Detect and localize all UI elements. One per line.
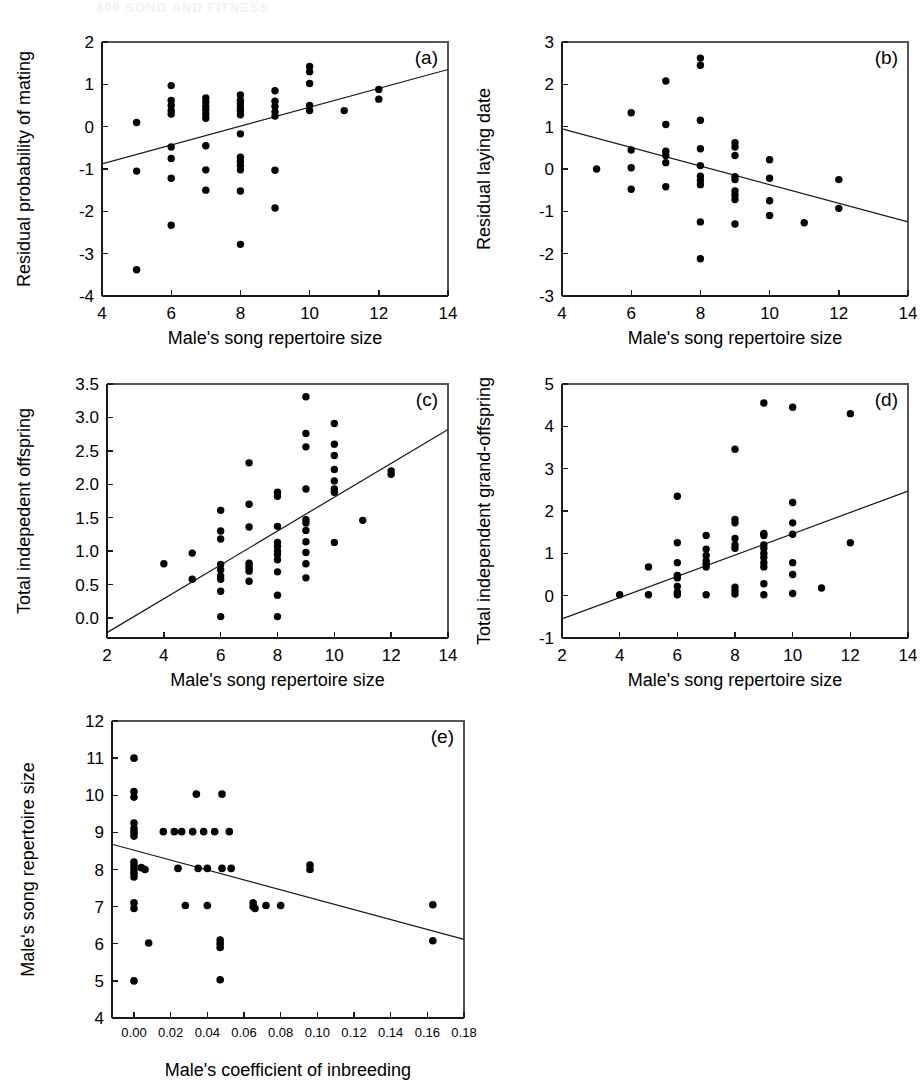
data-point [141, 866, 149, 874]
data-point [194, 865, 202, 873]
data-point [760, 591, 767, 598]
y-tick-label: 2.5 [75, 442, 99, 461]
x-tick-label: 8 [730, 646, 739, 665]
data-point [697, 218, 704, 225]
figure-root: 400 SONG AND FITNESS -4-3-2-101246810121… [0, 0, 922, 1085]
panel-e-repertoire-vs-inbreeding: 4567891011120.000.020.040.060.080.100.12… [12, 705, 482, 1080]
panel-letter: (a) [415, 47, 438, 68]
data-point [697, 62, 704, 69]
regression-line [107, 429, 448, 632]
y-tick-label: 7 [95, 898, 104, 917]
data-point [302, 538, 309, 545]
data-point [171, 828, 179, 836]
data-point [306, 80, 313, 87]
y-tick-label: 1.5 [75, 509, 99, 528]
y-tick-label: 2 [545, 75, 554, 94]
data-point [160, 560, 167, 567]
data-point [731, 152, 738, 159]
x-axis-title: Male's coefficient of inbreeding [165, 1060, 411, 1080]
plot-e: 4567891011120.000.020.040.060.080.100.12… [12, 705, 482, 1080]
data-point [674, 539, 681, 546]
y-tick-label: 1 [85, 75, 94, 94]
data-point [237, 241, 244, 248]
y-axis-title: Total independent grand-offspring [474, 377, 494, 645]
data-point [227, 865, 235, 873]
plot-a: -4-3-2-1012468101214(a)Male's song reper… [12, 28, 462, 348]
data-point [835, 205, 842, 212]
data-point [593, 165, 600, 172]
plot-frame [112, 721, 464, 1018]
regression-line [562, 491, 908, 619]
data-point [645, 563, 652, 570]
y-tick-label: 1 [545, 118, 554, 137]
data-point [217, 507, 224, 514]
data-point [226, 828, 234, 836]
data-point [217, 588, 224, 595]
x-tick-label: 0.14 [378, 1025, 403, 1040]
data-point [302, 430, 309, 437]
data-point [302, 549, 309, 556]
y-tick-label: 3.0 [75, 408, 99, 427]
y-tick-label: 3 [545, 33, 554, 52]
x-tick-label: 6 [626, 304, 635, 323]
data-point [302, 574, 309, 581]
data-point [174, 865, 182, 873]
data-point [662, 121, 669, 128]
data-point [697, 255, 704, 262]
data-point [731, 143, 738, 150]
x-tick-label: 4 [615, 646, 624, 665]
x-axis-title: Male's song repertoire size [628, 670, 843, 690]
data-point [218, 865, 226, 873]
x-tick-label: 0.12 [341, 1025, 366, 1040]
data-point [731, 590, 738, 597]
data-point [182, 902, 190, 910]
data-point [302, 560, 309, 567]
y-tick-label: 3.5 [75, 375, 99, 394]
data-point [168, 82, 175, 89]
data-point [789, 590, 796, 597]
data-point [789, 519, 796, 526]
data-point [306, 107, 313, 114]
plot-b: -3-2-10123468101214(b)Male's song repert… [472, 28, 922, 348]
x-tick-label: 14 [899, 646, 918, 665]
data-point [702, 545, 709, 552]
data-point [616, 591, 623, 598]
data-point [628, 186, 635, 193]
data-point [168, 143, 175, 150]
x-tick-label: 10 [325, 646, 344, 665]
x-tick-label: 4 [557, 304, 566, 323]
x-tick-label: 10 [300, 304, 319, 323]
panel-letter: (c) [416, 389, 438, 410]
y-tick-label: 8 [95, 861, 104, 880]
data-point [133, 167, 140, 174]
y-axis-title: Residual laying date [474, 88, 494, 250]
data-point [271, 167, 278, 174]
data-points [160, 393, 395, 620]
x-tick-label: 0.00 [121, 1025, 146, 1040]
data-point [211, 828, 219, 836]
panel-letter: (b) [875, 47, 898, 68]
x-tick-label: 8 [696, 304, 705, 323]
data-points [130, 754, 436, 984]
data-point [674, 574, 681, 581]
data-point [217, 527, 224, 534]
data-point [818, 584, 825, 591]
data-point [702, 591, 709, 598]
y-tick-label: 0 [85, 118, 94, 137]
y-tick-label: 0 [545, 587, 554, 606]
data-point [302, 393, 309, 400]
y-tick-label: 4 [545, 417, 554, 436]
data-point [628, 109, 635, 116]
x-axis-title: Male's song repertoire size [168, 328, 383, 348]
data-point [133, 119, 140, 126]
data-point [674, 559, 681, 566]
panel-b-residual-laying-date: -3-2-10123468101214(b)Male's song repert… [472, 28, 922, 348]
data-point [168, 175, 175, 182]
data-points [593, 54, 843, 262]
data-point [168, 222, 175, 229]
data-point [697, 181, 704, 188]
x-tick-label: 0.18 [451, 1025, 476, 1040]
data-point [302, 443, 309, 450]
x-tick-label: 10 [783, 646, 802, 665]
y-axis-title: Total indepedent offspring [14, 408, 34, 614]
